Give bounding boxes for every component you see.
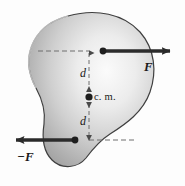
force-label-negative: −F <box>17 150 34 163</box>
center-of-mass-label: c. m. <box>94 92 116 103</box>
rigid-body-blob <box>29 13 154 167</box>
force-application-point-upper <box>100 48 107 55</box>
physics-figure-force-couple: F −F d d c. m. <box>0 0 185 186</box>
distance-label-lower: d <box>80 115 86 127</box>
figure-caption <box>8 176 178 185</box>
center-of-mass-dot <box>85 93 92 100</box>
blob-outline <box>29 13 154 167</box>
force-label-positive: F <box>144 60 153 73</box>
distance-label-upper: d <box>80 67 86 79</box>
force-application-point-lower <box>72 137 79 144</box>
